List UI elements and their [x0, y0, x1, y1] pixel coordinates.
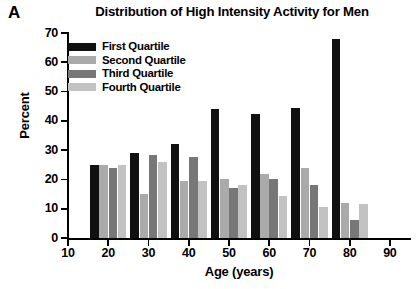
- bar-40-first: [171, 144, 180, 238]
- x-axis-tick-label: 10: [48, 247, 88, 260]
- bar-70-third: [310, 185, 319, 238]
- x-axis-tick-label: 30: [128, 247, 168, 260]
- x-axis-tick: [148, 239, 150, 246]
- x-axis-tick: [268, 239, 270, 246]
- y-axis-tick-label: 10: [16, 202, 58, 215]
- legend-item-3: Third Quartile: [68, 67, 186, 81]
- bar-70-fourth: [319, 207, 328, 238]
- y-axis-tick: [61, 32, 68, 34]
- x-axis-title: Age (years): [68, 264, 410, 279]
- bar-80-first: [332, 39, 341, 238]
- bar-50-first: [211, 109, 220, 238]
- bar-80-third: [350, 220, 359, 238]
- bar-80-second: [341, 203, 350, 238]
- chart-legend: First QuartileSecond QuartileThird Quart…: [68, 40, 186, 94]
- x-axis-tick-label: 50: [209, 247, 249, 260]
- legend-item-label: Fourth Quartile: [102, 82, 181, 93]
- y-axis-tick: [61, 208, 68, 210]
- y-axis-tick-label: 0: [16, 232, 58, 245]
- bar-30-fourth: [158, 162, 167, 238]
- bar-50-second: [220, 179, 229, 238]
- legend-item-label: Third Quartile: [102, 68, 173, 79]
- x-axis-tick: [389, 239, 391, 246]
- bar-20-second: [99, 165, 108, 238]
- y-axis-tick-label: 70: [16, 27, 58, 40]
- x-axis-line: [67, 238, 411, 240]
- bar-30-first: [130, 153, 139, 238]
- legend-item-1: First Quartile: [68, 40, 186, 54]
- x-axis-tick: [188, 239, 190, 246]
- legend-item-label: Second Quartile: [102, 55, 186, 66]
- x-axis-tick: [349, 239, 351, 246]
- bar-40-third: [189, 157, 198, 238]
- bar-30-third: [149, 155, 158, 238]
- legend-swatch-icon: [68, 43, 96, 51]
- legend-swatch-icon: [68, 56, 96, 64]
- x-axis-tick: [107, 239, 109, 246]
- x-axis-tick-label: 60: [249, 247, 289, 260]
- bar-20-third: [109, 168, 118, 238]
- bar-70-second: [301, 168, 310, 238]
- chart-title: Distribution of High Intensity Activity …: [46, 5, 418, 19]
- y-axis-tick: [61, 61, 68, 63]
- y-axis-tick: [61, 179, 68, 181]
- y-axis-tick: [61, 120, 68, 122]
- legend-item-4: Fourth Quartile: [68, 81, 186, 95]
- legend-swatch-icon: [68, 83, 96, 91]
- x-axis-tick-label: 90: [370, 247, 410, 260]
- bar-60-fourth: [279, 196, 288, 238]
- bar-20-first: [90, 165, 99, 238]
- x-axis-tick-label: 70: [289, 247, 329, 260]
- bar-60-first: [251, 114, 260, 238]
- bar-20-fourth: [118, 165, 127, 238]
- x-axis-tick: [309, 239, 311, 246]
- x-axis-tick-label: 40: [169, 247, 209, 260]
- bar-70-first: [291, 108, 300, 238]
- y-axis-tick: [61, 91, 68, 93]
- bar-50-third: [229, 188, 238, 238]
- legend-item-label: First Quartile: [102, 41, 169, 52]
- bar-60-third: [269, 179, 278, 238]
- bar-50-fourth: [238, 185, 247, 238]
- bar-40-second: [180, 181, 189, 238]
- legend-swatch-icon: [68, 70, 96, 78]
- bar-60-second: [260, 174, 269, 238]
- x-axis-tick-label: 20: [88, 247, 128, 260]
- y-axis-title: Percent: [17, 56, 32, 176]
- legend-item-2: Second Quartile: [68, 54, 186, 68]
- figure-panel-a: A Distribution of High Intensity Activit…: [0, 0, 420, 289]
- bar-40-fourth: [198, 181, 207, 238]
- x-axis-tick: [228, 239, 230, 246]
- bar-30-second: [140, 194, 149, 238]
- y-axis-tick: [61, 149, 68, 151]
- x-axis-tick: [67, 239, 69, 246]
- x-axis-tick-label: 80: [330, 247, 370, 260]
- bar-80-fourth: [359, 204, 368, 238]
